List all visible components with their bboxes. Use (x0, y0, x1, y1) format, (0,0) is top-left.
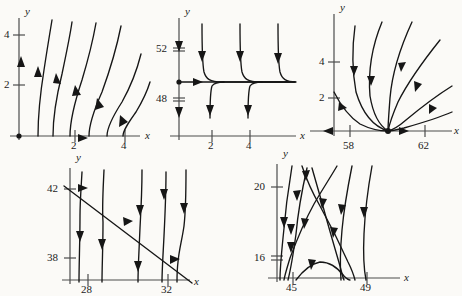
panel-4-x-tick-28: 28 (81, 284, 92, 295)
panel-3-curves (323, 22, 452, 135)
panel-1-x-axis-label: x (145, 130, 150, 141)
panel-2-x-tick-4: 4 (246, 140, 252, 151)
panel-5-x-axis-label: x (404, 272, 409, 283)
panel-2-curves (175, 24, 296, 118)
panel-3-axes (310, 14, 452, 137)
panel-5-y-tick-16: 16 (254, 252, 265, 263)
panel-5-x-tick-49: 49 (360, 282, 371, 293)
panel-1-x-tick-2: 2 (71, 140, 77, 151)
panel-2-y-tick-48: 48 (156, 93, 167, 104)
panel-3-x-axis-label: x (454, 125, 459, 136)
panel-4-y-tick-42: 42 (47, 183, 58, 194)
panel-1-x-tick-4: 4 (121, 140, 127, 151)
panel-2-axes (170, 18, 296, 142)
panel-3-x-tick-58: 58 (343, 140, 354, 151)
panel-2-x-tick-2: 2 (208, 140, 214, 151)
panel-1-y-tick-2: 2 (4, 79, 10, 90)
panel-1-y-axis-label: y (25, 6, 30, 17)
direction-field-figure: x y 4 2 2 4 x y 52 48 2 4 x y 4 2 58 62 … (0, 0, 462, 296)
panel-2-y-tick-52: 52 (156, 43, 167, 54)
panel-4-x-tick-32: 32 (161, 284, 172, 295)
panel-3-y-tick-4: 4 (319, 56, 325, 67)
panel-4-curves (64, 170, 192, 283)
panel-2-y-axis-label: y (185, 6, 190, 17)
panel-1-y-tick-4: 4 (4, 29, 10, 40)
figure-canvas (0, 0, 462, 296)
panel-5-y-axis-label: y (283, 148, 288, 159)
panel-2-x-axis-label: x (300, 130, 305, 141)
panel-3-x-tick-62: 62 (418, 140, 429, 151)
panel-5-curves (280, 166, 372, 280)
panel-3-y-axis-label: y (340, 2, 345, 13)
panel-3-y-tick-2: 2 (319, 92, 325, 103)
panel-1-curves (16, 20, 150, 142)
panel-4-y-axis-label: y (76, 152, 81, 163)
panel-5-x-tick-45: 45 (286, 282, 297, 293)
panel-5-y-tick-20: 20 (254, 181, 265, 192)
panel-4-y-tick-38: 38 (47, 252, 58, 263)
panel-4-x-axis-label: x (194, 276, 199, 287)
